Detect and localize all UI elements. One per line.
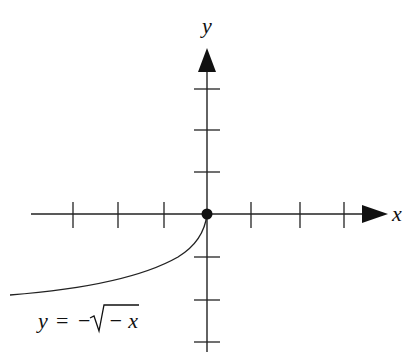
origin-dot xyxy=(202,209,213,220)
y-axis-arrow-icon xyxy=(198,48,216,72)
graph: y x y = − − x xyxy=(0,0,411,354)
x-axis-label: x xyxy=(391,201,402,226)
x-axis-arrow-icon xyxy=(362,205,388,223)
equation-equals: = xyxy=(56,308,68,333)
equation-radicand: − x xyxy=(108,308,138,333)
equation-minus: − xyxy=(78,308,90,333)
equation-label: y = − − x xyxy=(36,305,139,333)
y-axis-label: y xyxy=(200,13,212,38)
function-curve xyxy=(10,214,207,295)
equation-y: y xyxy=(36,308,48,333)
